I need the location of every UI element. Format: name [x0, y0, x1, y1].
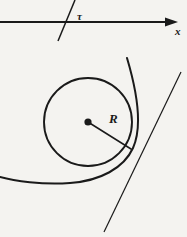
tau-label: τ — [77, 11, 82, 22]
circle-center-dot — [84, 118, 91, 125]
radius-label: R — [109, 112, 118, 125]
radius-line — [88, 122, 131, 149]
figure-canvas: τ x R — [0, 0, 187, 237]
diagram-svg — [0, 0, 187, 237]
tangent-line — [104, 72, 181, 232]
x-axis-label: x — [175, 26, 181, 37]
tau-tick-mark — [58, 0, 75, 41]
